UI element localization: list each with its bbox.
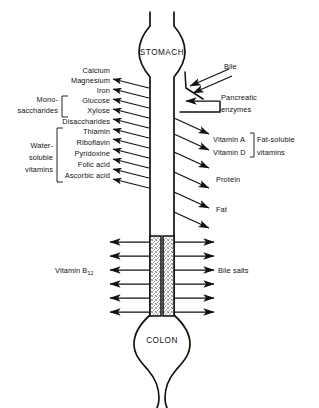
left-absorption-arrows (113, 79, 149, 188)
gi-tract-absorption-diagram: STOMACH COLON Calcium Magnesium Iron Glu… (0, 0, 319, 408)
label-monosaccharides-line1: Mono- (37, 95, 59, 104)
label-fat-soluble-line2: vitamins (257, 148, 285, 157)
bracket-fat-soluble-vitamins (250, 133, 254, 157)
label-pancreatic-line1: Pancreatic (221, 93, 257, 102)
label-ascorbic-acid: Ascorbic acid (65, 171, 110, 180)
label-magnesium: Magnesium (71, 76, 110, 85)
label-riboflavin: Riboflavin (77, 138, 110, 147)
label-calcium: Calcium (83, 66, 110, 75)
bracket-monosaccharides (62, 96, 68, 117)
label-iron: Iron (97, 86, 110, 95)
label-folic-acid: Folic acid (78, 160, 110, 169)
label-water-soluble-line1: Water- (31, 141, 54, 150)
label-vitamin-b12: Vitamin B12 (55, 266, 93, 276)
label-protein: Protein (216, 175, 240, 184)
bile-arrows (190, 69, 232, 93)
label-vitamin-a: Vitamin A (213, 135, 245, 144)
label-monosaccharides-line2: saccharides (17, 106, 58, 115)
right-absorption-arrows (174, 118, 209, 228)
label-pyridoxine: Pyridoxine (74, 149, 110, 158)
right-mucosa-block (163, 236, 174, 316)
organ-label-colon: COLON (146, 336, 178, 345)
label-water-soluble-line3: vitamins (25, 165, 53, 174)
bracket-water-soluble-vitamins (57, 128, 63, 182)
label-xylose: Xylose (87, 106, 110, 115)
label-disaccharides: Disaccharides (62, 117, 110, 126)
label-thiamin: Thiamin (83, 127, 110, 136)
left-mucosa-block (150, 236, 161, 316)
label-bile-salts: Bile salts (218, 266, 249, 275)
diagram-canvas: STOMACH COLON Calcium Magnesium Iron Glu… (0, 0, 319, 408)
label-vitamin-d: Vitamin D (213, 148, 246, 157)
label-pancreatic-line2: enzymes (221, 105, 251, 114)
label-glucose: Glucose (82, 96, 110, 105)
label-water-soluble-line2: soluble (29, 153, 53, 162)
label-bile: Bile (224, 62, 237, 71)
label-fat: Fat (216, 205, 227, 214)
vitamin-b12-arrows (110, 242, 150, 312)
pancreatic-duct (180, 101, 220, 112)
organ-label-stomach: STOMACH (140, 48, 184, 57)
label-fat-soluble-line1: Fat-soluble (257, 135, 295, 144)
bile-salts-arrows (174, 242, 214, 312)
